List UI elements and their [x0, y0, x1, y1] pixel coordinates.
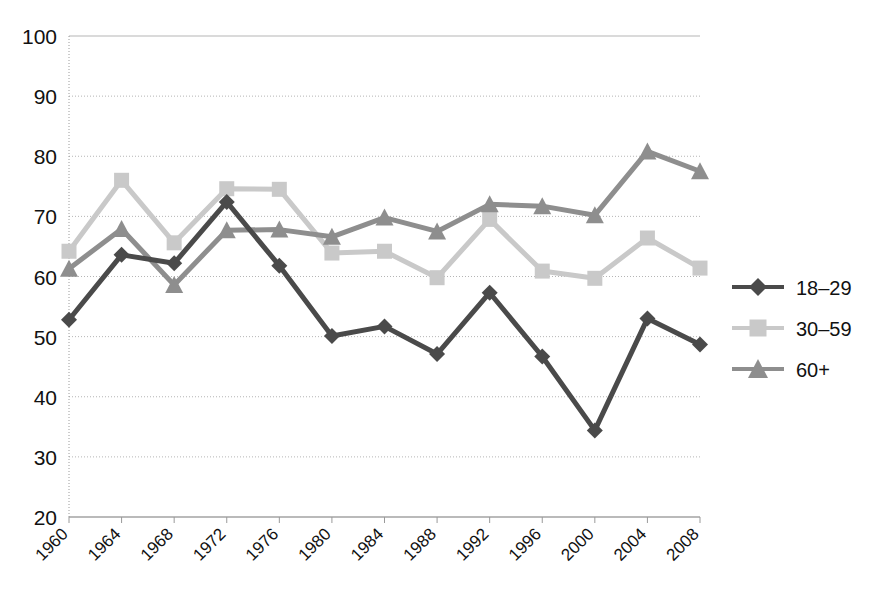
data-point-diamond: [639, 311, 655, 327]
data-point-triangle: [113, 220, 131, 237]
data-point-square: [62, 244, 77, 259]
series-60+: [60, 142, 709, 292]
x-tick-label: 2004: [610, 524, 650, 564]
y-tick-label: 20: [34, 506, 57, 529]
data-point-square: [640, 231, 655, 246]
x-tick-label: 1976: [242, 524, 282, 564]
legend-label: 30–59: [796, 318, 852, 340]
y-tick-labels: 2030405060708090100: [22, 25, 57, 529]
data-point-square: [377, 244, 392, 259]
x-tick-labels: 1960196419681972197619801984198819921996…: [32, 524, 703, 564]
x-tick-label: 1984: [347, 524, 387, 564]
y-tick-label: 60: [34, 266, 57, 289]
data-series-layer: [60, 142, 709, 438]
data-point-triangle: [638, 142, 656, 159]
x-tick-label: 1964: [84, 524, 124, 564]
data-point-square: [587, 271, 602, 286]
data-point-square: [324, 246, 339, 261]
data-point-square: [693, 261, 708, 276]
y-tick-label: 100: [22, 25, 57, 48]
x-tick-label: 1968: [137, 524, 177, 564]
line-chart: 2030405060708090100 19601964196819721976…: [0, 0, 874, 603]
series-line: [69, 202, 700, 430]
x-tick-label: 1980: [295, 524, 335, 564]
x-tick-label: 1972: [189, 524, 229, 564]
chart-figure: 2030405060708090100 19601964196819721976…: [0, 0, 874, 603]
data-point-square: [535, 264, 550, 279]
x-tick-label: 2000: [557, 524, 597, 564]
x-tick-label: 1996: [505, 524, 545, 564]
y-tick-label: 70: [34, 205, 57, 228]
y-tick-label: 30: [34, 446, 57, 469]
x-tick-label: 1992: [452, 524, 492, 564]
y-tick-label: 50: [34, 326, 57, 349]
data-point-square: [272, 182, 287, 197]
y-tick-label: 90: [34, 85, 57, 108]
x-tick-label: 1988: [400, 524, 440, 564]
data-point-square: [167, 235, 182, 250]
series-18-29: [61, 194, 708, 438]
legend-label: 18–29: [796, 277, 852, 299]
x-tick-label: 2008: [663, 524, 703, 564]
y-tick-label: 80: [34, 145, 57, 168]
x-tick-marks: [69, 517, 700, 523]
legend-item[interactable]: 60+: [732, 359, 830, 381]
data-point-square: [482, 212, 497, 227]
legend-label: 60+: [796, 359, 830, 381]
data-point-square: [430, 270, 445, 285]
data-point-diamond: [692, 336, 708, 352]
data-point-square: [750, 320, 767, 337]
data-point-diamond: [749, 278, 767, 296]
data-point-square: [114, 173, 129, 188]
legend-item[interactable]: 30–59: [732, 318, 852, 340]
y-tick-label: 40: [34, 386, 57, 409]
legend-item[interactable]: 18–29: [732, 277, 852, 299]
x-tick-label: 1960: [32, 524, 72, 564]
chart-legend: 18–2930–5960+: [732, 277, 852, 381]
